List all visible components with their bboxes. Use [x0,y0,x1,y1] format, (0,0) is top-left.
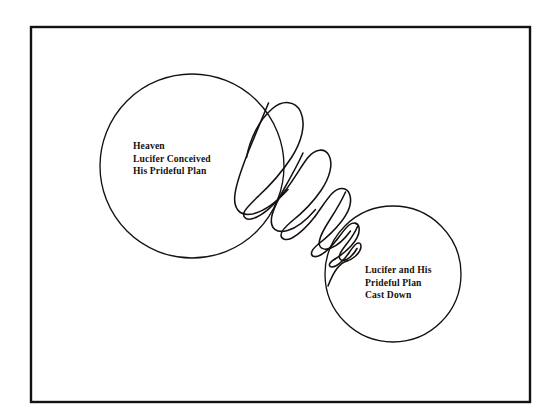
heaven-label-line-3: His Prideful Plan [133,165,211,178]
outer-border-rectangle [31,27,530,402]
cast-down-label-line-2: Prideful Plan [365,277,432,290]
coil-outer-strand-3 [319,192,350,249]
coil-loop-2 [285,150,331,221]
heaven-label-line-2: Lucifer Conceived [133,153,211,166]
heaven-label-line-1: Heaven [133,140,211,153]
coil-loop-4 [335,223,359,259]
diagram-canvas: Heaven Lucifer Conceived His Prideful Pl… [0,0,553,418]
coil-return-2 [281,217,315,240]
cast-down-label-line-1: Lucifer and His [365,264,432,277]
diagram-vector-layer [0,0,553,418]
descending-coil [235,103,361,286]
coil-loop-1 [247,103,304,197]
heaven-label: Heaven Lucifer Conceived His Prideful Pl… [133,140,211,178]
cast-down-label-line-3: Cast Down [365,289,432,302]
cast-down-label: Lucifer and His Prideful Plan Cast Down [365,264,432,302]
